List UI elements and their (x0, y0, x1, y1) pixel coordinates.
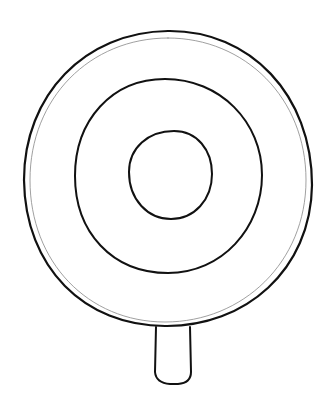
inner-circle (129, 131, 212, 219)
lollipop-drawing (0, 0, 330, 407)
middle-circle (75, 79, 262, 273)
stick-icon (155, 327, 191, 384)
outer-circle (24, 31, 312, 326)
outer-thin-ring (30, 38, 306, 322)
